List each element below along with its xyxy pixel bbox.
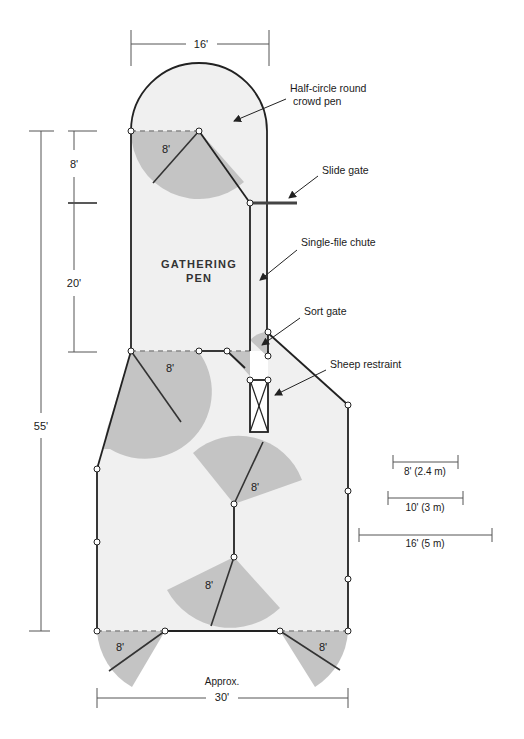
- post: [224, 348, 230, 354]
- post: [265, 353, 271, 359]
- post: [196, 348, 202, 354]
- post: [277, 628, 283, 634]
- gate-swing-bottom-left: [97, 631, 165, 687]
- dimension-bottom-approx: Approx.: [205, 676, 239, 687]
- scale-bar-label: 10' (3 m): [405, 502, 444, 513]
- sheep-restraint-box[interactable]: [250, 380, 268, 432]
- post: [128, 348, 134, 354]
- callout-crowd-pen-2: crowd pen: [293, 95, 342, 107]
- post: [162, 628, 168, 634]
- post: [345, 576, 351, 582]
- post: [128, 128, 134, 134]
- gate-swing-label: 8': [319, 641, 327, 653]
- gathering-pen-title-2: PEN: [186, 272, 212, 284]
- post: [265, 377, 271, 383]
- post: [345, 402, 351, 408]
- post: [94, 466, 100, 472]
- post: [196, 128, 202, 134]
- dimension-crowd-pen-depth: 8': [70, 158, 78, 170]
- post: [247, 200, 253, 206]
- gate-swing-label: 8': [205, 579, 213, 591]
- post: [94, 628, 100, 634]
- post: [265, 329, 271, 335]
- scale-bar-label: 16' (5 m): [405, 538, 444, 549]
- scale-bar-label: 8' (2.4 m): [404, 466, 446, 477]
- callout-single-file-chute: Single-file chute: [301, 236, 376, 248]
- sheep-handling-layout-diagram: 8' 8' 8' 8' 8' 8' GATHERING PEN Half-cir…: [0, 0, 524, 739]
- post: [94, 539, 100, 545]
- post: [345, 628, 351, 634]
- post: [231, 554, 237, 560]
- callout-sheep-restraint: Sheep restraint: [330, 358, 401, 370]
- dimension-top-width: 16': [194, 38, 208, 50]
- callout-slide-gate: Slide gate: [322, 164, 369, 176]
- callout-arrow-slide-gate: [289, 176, 318, 198]
- callout-crowd-pen: Half-circle round: [290, 82, 367, 94]
- gate-swing-label: 8': [166, 362, 174, 374]
- post: [231, 501, 237, 507]
- post: [247, 377, 253, 383]
- dimension-gathering-pen-length: 20': [67, 277, 81, 289]
- gate-swing-label: 8': [116, 641, 124, 653]
- gate-swing-bottom-right: [280, 631, 348, 687]
- gate-swing-label: 8': [251, 481, 259, 493]
- gate-swing-label: 8': [162, 143, 170, 155]
- gathering-pen-floor: [131, 63, 267, 351]
- post: [345, 488, 351, 494]
- dimension-total-length: 55': [34, 420, 48, 432]
- dimension-bottom-width: 30': [215, 691, 229, 703]
- callout-sort-gate: Sort gate: [304, 305, 347, 317]
- gathering-pen-title: GATHERING: [161, 258, 237, 270]
